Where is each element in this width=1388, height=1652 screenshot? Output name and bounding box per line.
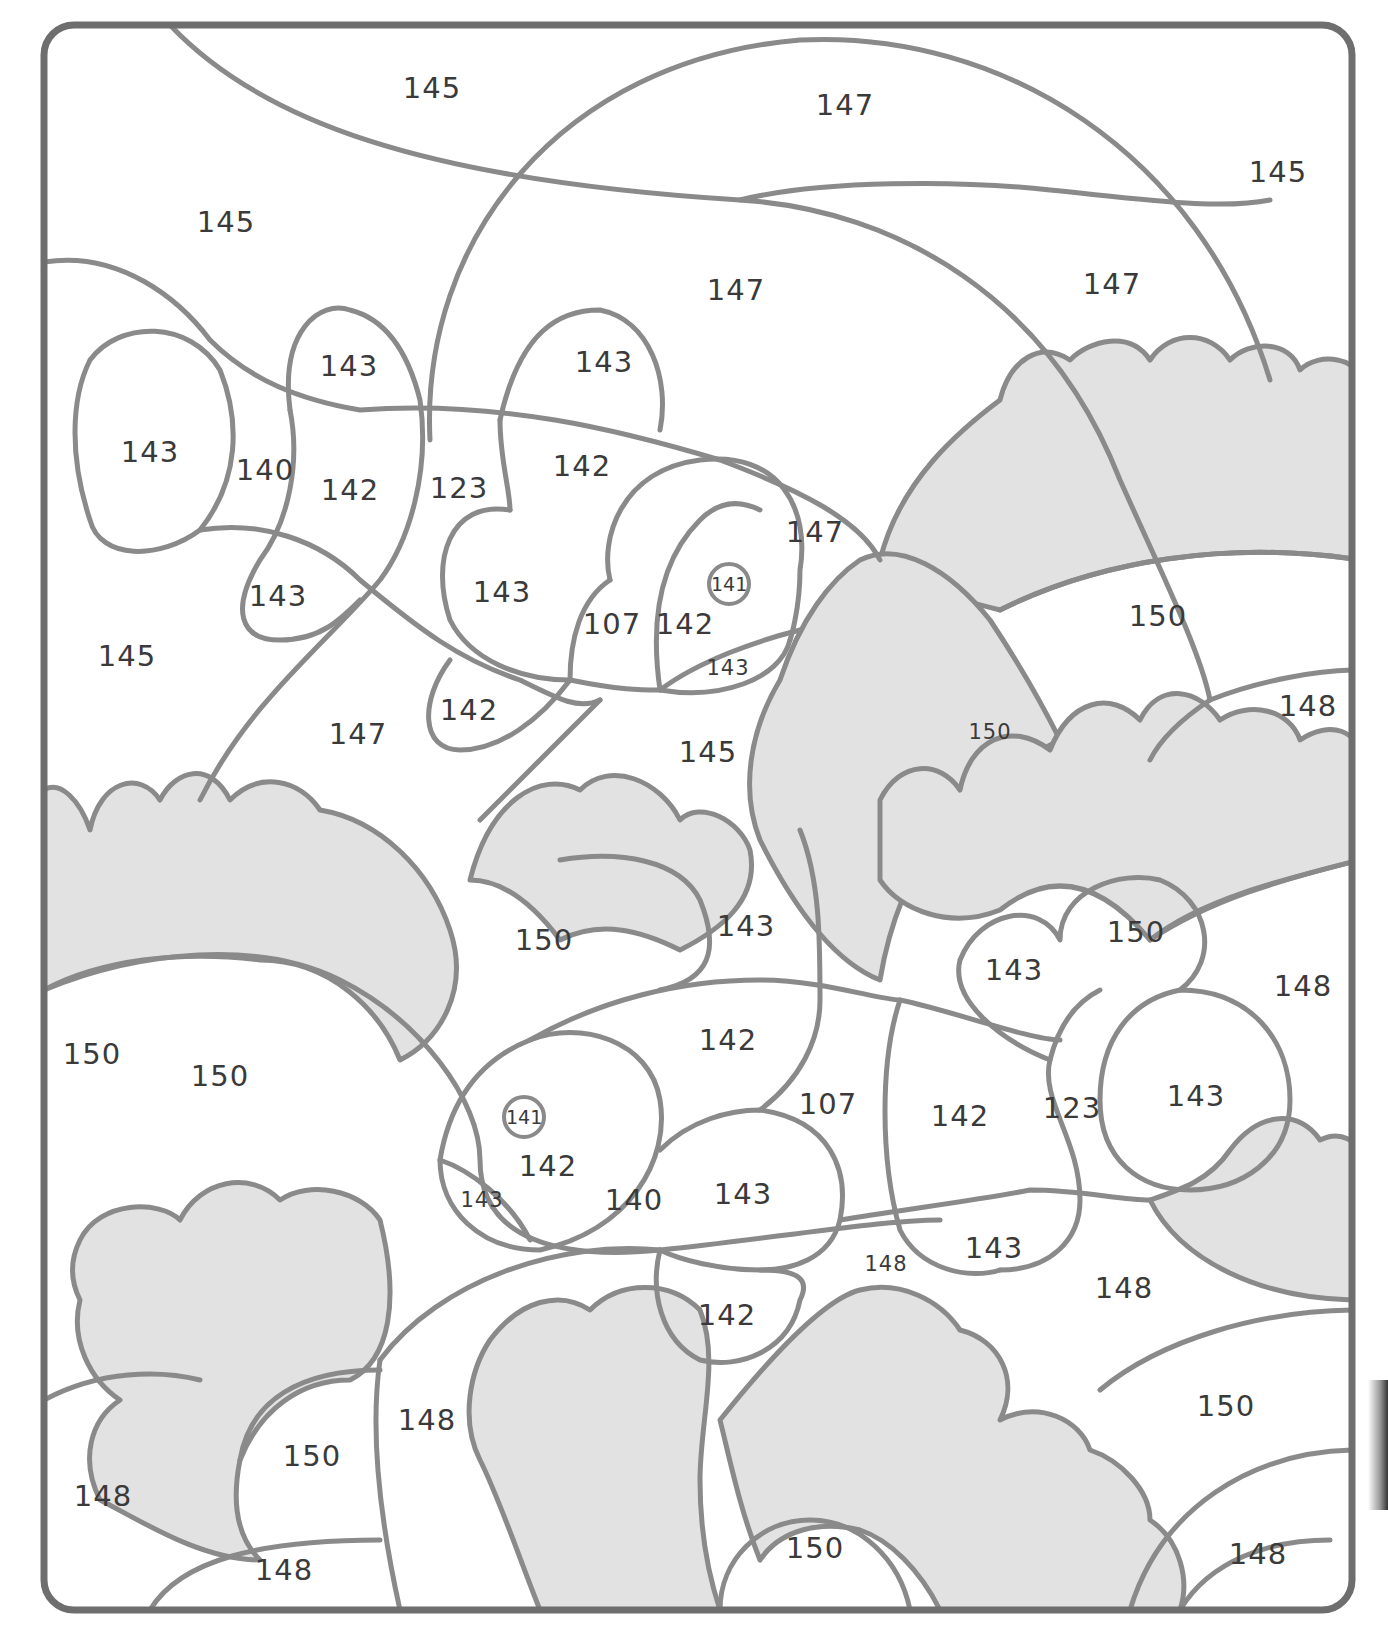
- region-number: 107: [583, 607, 641, 641]
- region-number: 147: [786, 515, 844, 549]
- region-number: 148: [398, 1403, 456, 1437]
- region-number: 147: [816, 88, 874, 122]
- region-number: 143: [320, 349, 378, 383]
- region-number: 143: [1167, 1079, 1225, 1113]
- region-number: 150: [1129, 599, 1187, 633]
- region-number: 123: [1043, 1091, 1101, 1125]
- region-number: 143: [460, 1188, 503, 1212]
- region-number: 142: [698, 1298, 756, 1332]
- region-number: 143: [706, 656, 749, 680]
- region-number: 148: [1279, 689, 1337, 723]
- coloring-sheet: [0, 0, 1388, 1652]
- region-number: 150: [968, 720, 1011, 744]
- cut-off-heading: [0, 0, 1388, 14]
- region-number: 150: [191, 1059, 249, 1093]
- region-number: 145: [403, 71, 461, 105]
- region-number: 142: [699, 1023, 757, 1057]
- region-number: 148: [864, 1252, 907, 1276]
- region-number: 107: [799, 1087, 857, 1121]
- region-number: 143: [965, 1231, 1023, 1265]
- region-number: 143: [985, 953, 1043, 987]
- region-number: 142: [519, 1149, 577, 1183]
- page-edge-shadow: [1368, 1380, 1388, 1510]
- region-number: 142: [553, 449, 611, 483]
- region-number: 142: [656, 607, 714, 641]
- region-number: 147: [329, 717, 387, 751]
- region-number: 142: [440, 693, 498, 727]
- region-number: 145: [197, 205, 255, 239]
- circled-region-number: 141: [707, 562, 751, 606]
- region-number: 150: [63, 1037, 121, 1071]
- region-number: 143: [473, 575, 531, 609]
- region-number: 142: [321, 473, 379, 507]
- region-number: 148: [1095, 1271, 1153, 1305]
- region-number: 140: [605, 1183, 663, 1217]
- region-number: 143: [575, 345, 633, 379]
- region-number: 143: [249, 579, 307, 613]
- region-number: 142: [931, 1099, 989, 1133]
- region-number: 145: [1249, 155, 1307, 189]
- region-number: 145: [98, 639, 156, 673]
- region-number: 123: [430, 471, 488, 505]
- region-number: 143: [717, 909, 775, 943]
- region-number: 143: [121, 435, 179, 469]
- region-number: 150: [1197, 1389, 1255, 1423]
- region-number: 140: [236, 453, 294, 487]
- region-number: 147: [1083, 267, 1141, 301]
- region-number: 145: [679, 735, 737, 769]
- region-number: 148: [255, 1553, 313, 1587]
- region-number: 148: [74, 1479, 132, 1513]
- region-number: 148: [1274, 969, 1332, 1003]
- region-number: 150: [1107, 915, 1165, 949]
- region-number: 148: [1229, 1537, 1287, 1571]
- region-number: 150: [786, 1531, 844, 1565]
- region-number: 150: [515, 923, 573, 957]
- circled-region-number: 141: [502, 1095, 546, 1139]
- region-number: 150: [283, 1439, 341, 1473]
- region-number: 147: [707, 273, 765, 307]
- region-number: 143: [714, 1177, 772, 1211]
